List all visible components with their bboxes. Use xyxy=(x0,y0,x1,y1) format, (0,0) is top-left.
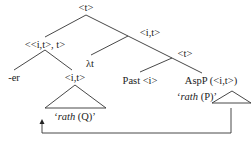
tree-lines xyxy=(0,0,252,141)
right-it-node-label: <i,t> xyxy=(140,27,160,38)
arrowhead-icon xyxy=(40,119,45,124)
degree-node-label: <<i,t>, t> xyxy=(25,39,65,50)
q-tail: (Q)’ xyxy=(75,111,96,122)
past-label: Past <i> xyxy=(123,75,158,86)
root-node-label: <t> xyxy=(79,2,94,13)
p-tail: (P)’ xyxy=(198,91,217,102)
aspp-label: AspP (<i,t>) xyxy=(185,75,237,86)
it-node-label: <i,t> xyxy=(65,72,85,83)
p-word: rath xyxy=(181,91,199,102)
lambda-label: λt xyxy=(86,58,94,69)
rath-q-label: ‘rath (Q)’ xyxy=(54,111,96,122)
er-label: -er xyxy=(8,72,20,83)
q-word: rath xyxy=(58,111,76,122)
inner-t-node-label: <t> xyxy=(178,48,193,59)
rath-p-label: ‘rath (P)’ xyxy=(177,91,217,102)
